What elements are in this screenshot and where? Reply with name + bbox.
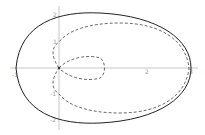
- y-tick-label: 2: [53, 11, 57, 18]
- x-tick-label: 2: [145, 68, 149, 75]
- origin-point: [58, 67, 60, 69]
- polar-plot: -1 2 3 2 1 -1 -2: [0, 0, 205, 135]
